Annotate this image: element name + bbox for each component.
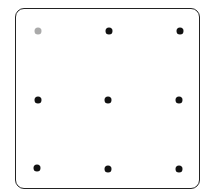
pattern-dot-8[interactable] [105,166,112,173]
pattern-dot-4[interactable] [35,97,42,104]
pattern-dot-7[interactable] [34,165,41,172]
pattern-dot-5[interactable] [105,97,112,104]
pattern-dot-6[interactable] [176,97,183,104]
pattern-dot-1[interactable] [35,28,42,35]
pattern-dot-3[interactable] [177,28,184,35]
pattern-dot-2[interactable] [106,28,113,35]
pattern-dot-9[interactable] [176,166,183,173]
